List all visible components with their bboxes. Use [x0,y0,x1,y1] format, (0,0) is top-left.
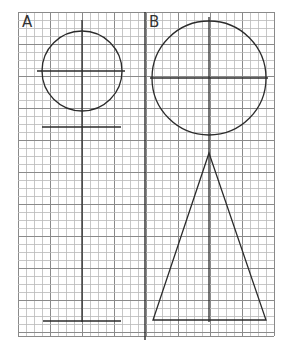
panel-a-label: A [22,15,32,30]
panel-b-label: B [149,15,159,30]
graph-paper-grid [18,12,275,337]
diagram-figure [0,0,284,348]
